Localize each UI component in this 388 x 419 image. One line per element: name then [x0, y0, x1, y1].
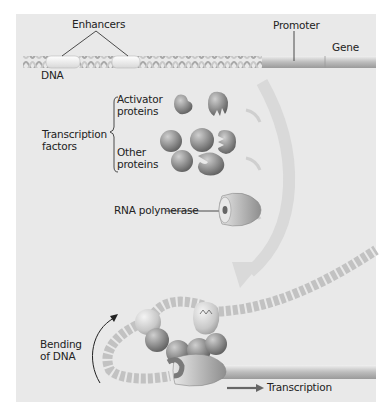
- label-other-line1: Other: [117, 146, 158, 158]
- gene-tube-bottom: [200, 365, 376, 379]
- label-activator-line2: proteins: [117, 105, 163, 117]
- activator-proteins: [174, 92, 228, 116]
- dna-strand-top: [23, 56, 376, 68]
- label-activator-proteins: Activator proteins: [117, 93, 163, 117]
- label-transcription-factors: Transcription factors: [42, 128, 107, 152]
- label-activator-line1: Activator: [117, 93, 163, 105]
- label-transcription: Transcription: [267, 381, 332, 393]
- label-rna-polymerase: RNA polymerase: [114, 204, 198, 216]
- label-enhancers: Enhancers: [72, 18, 125, 30]
- assembly-arrow: [232, 82, 289, 288]
- promoter-gene-tube: [262, 56, 376, 68]
- label-bending-of-dna: Bending of DNA: [40, 338, 82, 362]
- transcription-arrow: [227, 384, 264, 392]
- label-gene: Gene: [332, 41, 359, 53]
- label-transcription-factors-line1: Transcription: [42, 128, 107, 140]
- label-transcription-factors-line2: factors: [42, 140, 107, 152]
- enhancer-1: [46, 56, 80, 68]
- protein-complex: [135, 302, 227, 386]
- label-bending-line1: Bending: [40, 338, 82, 350]
- label-promoter: Promoter: [273, 19, 320, 31]
- rna-polymerase: [219, 193, 261, 226]
- label-dna: DNA: [41, 69, 64, 81]
- enhancer-2: [112, 56, 140, 68]
- label-other-line2: proteins: [117, 158, 158, 170]
- label-other-proteins: Other proteins: [117, 146, 158, 170]
- label-bending-line2: of DNA: [40, 350, 82, 362]
- other-proteins: [160, 128, 236, 176]
